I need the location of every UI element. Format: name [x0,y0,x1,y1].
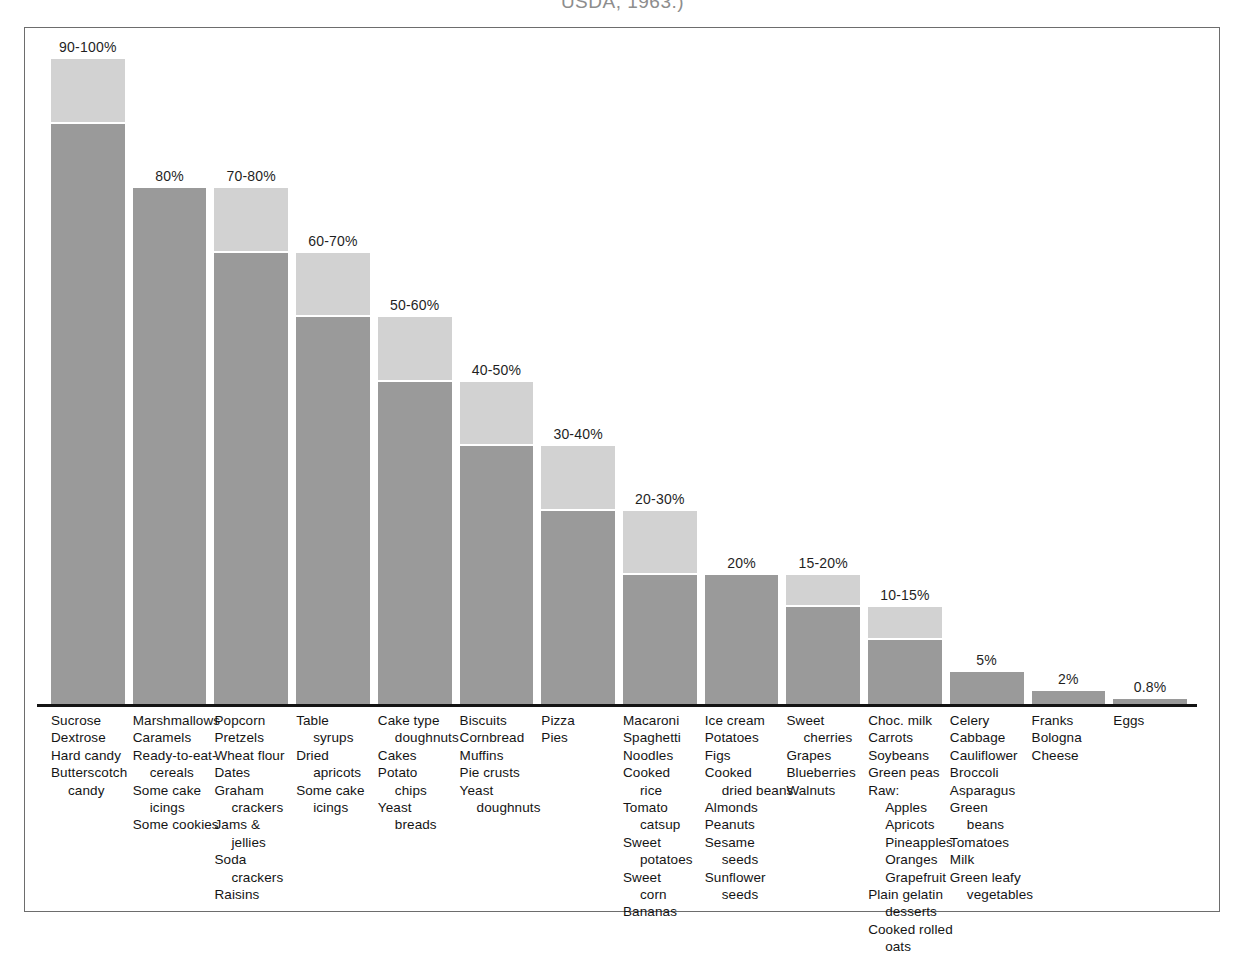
food-item: Tomatoes [950,834,1024,851]
food-list: PizzaPies [541,712,615,747]
food-item: Sweet [623,869,697,886]
food-item: Ready-to-eat- [133,747,207,764]
food-item: seeds [705,886,779,903]
bar [378,317,452,704]
food-item: desserts [868,903,942,920]
bar-column: 40-50%BiscuitsCornbreadMuffinsPie crusts… [460,28,534,913]
bar-segment-high [868,607,942,639]
food-item: Blueberries [786,764,860,781]
bar [868,607,942,704]
food-item: Asparagus [950,782,1024,799]
food-item: Potatoes [705,729,779,746]
food-item: potatoes [623,851,697,868]
food-item: Cake type [378,712,452,729]
food-item: Raw: [868,782,942,799]
bar [133,188,207,704]
bar-column: 50-60%Cake typedoughnutsCakesPotatochips… [378,28,452,913]
bar [1113,699,1187,704]
food-item: Muffins [460,747,534,764]
food-item: Potato [378,764,452,781]
food-item: icings [133,799,207,816]
bar [214,188,288,704]
food-item: apricots [296,764,370,781]
bar-segment-low [1032,691,1106,704]
food-list: FranksBolognaCheese [1032,712,1106,764]
food-item: Apples [868,799,942,816]
bar-column: 80%MarshmallowsCaramelsReady-to-eat-cere… [133,28,207,913]
bar-column: 90-100%SucroseDextroseHard candyButtersc… [51,28,125,913]
food-item: Green leafy [950,869,1024,886]
food-list: SweetcherriesGrapesBlueberriesWalnuts [786,712,860,799]
food-item: Cornbread [460,729,534,746]
food-list: CeleryCabbageCauliflowerBroccoliAsparagu… [950,712,1024,903]
bar-segment-low [705,575,779,704]
food-item: Cooked [623,764,697,781]
food-item: Cauliflower [950,747,1024,764]
bar-column: 20-30%MacaroniSpaghettiNoodlesCookedrice… [623,28,697,913]
food-list: Choc. milkCarrotsSoybeansGreen peasRaw:A… [868,712,942,955]
food-item: Tomato [623,799,697,816]
bar [541,446,615,704]
food-item: Hard candy [51,747,125,764]
food-item: Oranges [868,851,942,868]
food-list: Ice creamPotatoesFigsCookeddried beansAl… [705,712,779,903]
food-item: Grapes [786,747,860,764]
bar-segment-high [214,188,288,253]
food-item: chips [378,782,452,799]
food-item: Cakes [378,747,452,764]
food-item: Some cake [296,782,370,799]
food-item: Milk [950,851,1024,868]
bar-segment-low [1113,699,1187,704]
food-item: Green peas [868,764,942,781]
food-item: Plain gelatin [868,886,942,903]
food-item: Broccoli [950,764,1024,781]
food-item: Celery [950,712,1024,729]
food-item: vegetables [950,886,1024,903]
food-item: Soda [214,851,288,868]
food-item: icings [296,799,370,816]
food-item: Jams & [214,816,288,833]
bar-column: 70-80%PopcornPretzelsWheat flourDatesGra… [214,28,288,913]
food-list: Eggs [1113,712,1187,729]
bar-segment-low [950,672,1024,704]
food-item: Soybeans [868,747,942,764]
bar-column: 15-20%SweetcherriesGrapesBlueberriesWaln… [786,28,860,913]
bar-value-label: 20% [727,555,756,571]
bar [705,575,779,704]
food-item: Popcorn [214,712,288,729]
food-item: Butterscotch [51,764,125,781]
food-item: Pineapples [868,834,942,851]
food-item: Sesame [705,834,779,851]
bar-column: 10-15%Choc. milkCarrotsSoybeansGreen pea… [868,28,942,913]
food-item: Raisins [214,886,288,903]
food-item: Dates [214,764,288,781]
bar-segment-low [214,253,288,705]
bar-value-label: 60-70% [308,233,357,249]
food-item: Macaroni [623,712,697,729]
bar-segment-low [51,124,125,705]
bar-segment-high [296,253,370,318]
bar-segment-low [378,382,452,705]
food-item: Carrots [868,729,942,746]
bar-segment-low [868,640,942,705]
bar [1032,691,1106,704]
bar [623,511,697,705]
bar-segment-high [623,511,697,576]
food-item: Sweet [786,712,860,729]
food-item: Yeast [378,799,452,816]
bar-column: 20%Ice creamPotatoesFigsCookeddried bean… [705,28,779,913]
food-item: Yeast [460,782,534,799]
food-item: Walnuts [786,782,860,799]
food-item: Dried [296,747,370,764]
bar-segment-low [133,188,207,704]
food-item: Sucrose [51,712,125,729]
food-item: Choc. milk [868,712,942,729]
food-item: Bananas [623,903,697,920]
food-item: Pie crusts [460,764,534,781]
food-item: Table [296,712,370,729]
food-item: Apricots [868,816,942,833]
bar [51,59,125,704]
food-item: dried beans [705,782,779,799]
bar-value-label: 5% [976,652,997,668]
food-item: Wheat flour [214,747,288,764]
